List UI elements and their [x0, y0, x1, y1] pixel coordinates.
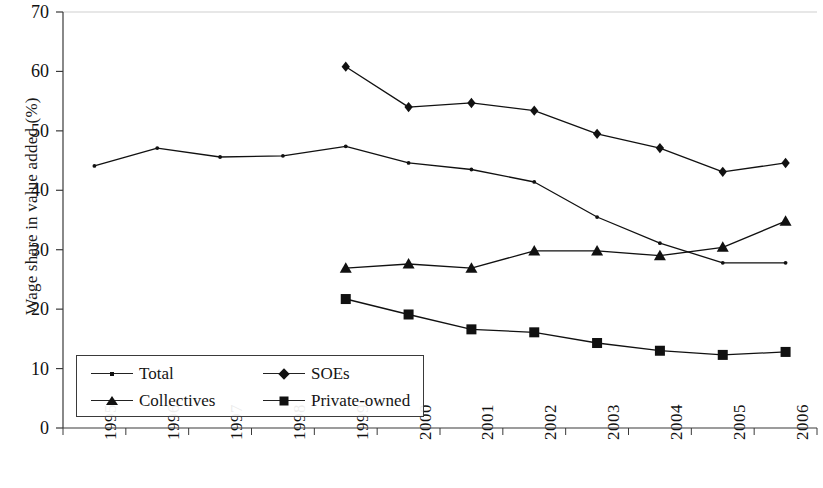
- data-point-diamond: [467, 98, 475, 108]
- data-point-diamond: [781, 158, 789, 168]
- data-point-dot: [658, 241, 662, 245]
- series-line: [346, 67, 786, 172]
- data-point-dot: [155, 146, 159, 150]
- data-point-dot: [93, 164, 97, 168]
- data-point-triangle: [780, 215, 792, 226]
- data-point-triangle: [591, 245, 603, 256]
- legend-label-private-owned: Private-owned: [311, 391, 410, 411]
- legend-marker-diamond-icon: [263, 367, 305, 381]
- data-point-dot: [784, 261, 788, 265]
- data-point-dot: [721, 261, 725, 265]
- legend-label-soes: SOEs: [311, 364, 350, 384]
- series-soes: [342, 61, 790, 177]
- data-point-triangle: [717, 241, 729, 252]
- series-line: [94, 146, 785, 262]
- legend-marker-square-icon: [263, 394, 305, 408]
- data-point-dot: [407, 161, 411, 165]
- data-point-square: [592, 338, 602, 348]
- series-layer: [93, 61, 792, 359]
- legend-entry-collectives: Collectives: [91, 391, 215, 411]
- data-point-dot: [218, 155, 222, 159]
- data-point-dot: [470, 168, 474, 172]
- series-line: [346, 221, 786, 268]
- data-point-square: [341, 294, 351, 304]
- legend-label-collectives: Collectives: [139, 391, 215, 411]
- data-point-square: [466, 324, 476, 334]
- data-point-square: [404, 309, 414, 319]
- data-point-diamond: [404, 102, 412, 112]
- data-point-diamond: [656, 143, 664, 153]
- chart-container: Wage share in value added (%) 0102030405…: [0, 0, 823, 488]
- data-point-diamond: [593, 129, 601, 139]
- legend-entry-total: Total: [91, 364, 174, 384]
- data-point-diamond: [530, 105, 538, 115]
- data-point-dot: [281, 154, 285, 158]
- series-line: [346, 299, 786, 355]
- legend-label-total: Total: [139, 364, 174, 384]
- data-point-diamond: [719, 167, 727, 177]
- data-point-square: [529, 327, 539, 337]
- data-point-square: [781, 347, 791, 357]
- data-point-dot: [595, 215, 599, 219]
- data-point-triangle: [403, 258, 415, 269]
- legend-marker-triangle-icon: [91, 394, 133, 408]
- data-point-triangle: [528, 245, 540, 256]
- data-point-diamond: [342, 61, 350, 71]
- legend: Total SOEs Collectives Private-owned: [76, 355, 424, 417]
- legend-marker-dot-icon: [91, 367, 133, 381]
- data-point-square: [655, 346, 665, 356]
- data-point-square: [718, 350, 728, 360]
- legend-entry-soes: SOEs: [263, 364, 350, 384]
- series-private-owned: [341, 294, 791, 360]
- series-total: [93, 144, 788, 264]
- legend-entry-private-owned: Private-owned: [263, 391, 410, 411]
- data-point-dot: [344, 144, 348, 148]
- data-point-dot: [532, 180, 536, 184]
